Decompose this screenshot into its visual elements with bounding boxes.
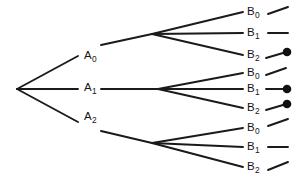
stub-a1b0 — [266, 68, 286, 75]
node-label-a1b0-subscript: 0 — [255, 71, 260, 81]
terminal-dot-a0b2 — [283, 48, 292, 57]
stub-a2b0 — [268, 119, 288, 126]
branch-a0-to-b1 — [152, 33, 243, 34]
node-label-a1b2: B2 — [247, 102, 259, 114]
node-label-a2b1-subscript: 1 — [255, 145, 260, 155]
node-label-a0b2-subscript: 2 — [255, 53, 260, 63]
node-label-a1b1-base: B — [247, 82, 255, 94]
node-label-a0b1-subscript: 1 — [255, 31, 260, 41]
node-label-a0b2: B2 — [247, 49, 259, 61]
branch-a0-to-b0 — [152, 12, 243, 34]
node-label-a1b1: B1 — [247, 83, 259, 95]
terminal-dot-a1b1 — [283, 85, 292, 94]
node-label-a1-base: A — [84, 81, 92, 93]
node-label-a0b0-base: B — [247, 5, 255, 17]
branch-a1-to-b2 — [158, 89, 243, 108]
node-label-a0-base: A — [84, 49, 92, 61]
level2-branches-a0 — [152, 12, 243, 55]
branch-a0-to-b2 — [152, 34, 243, 55]
branch-a2-to-b0 — [152, 128, 243, 143]
stub-a1b2 — [266, 105, 283, 110]
branch-a1-to-b0 — [158, 73, 243, 89]
node-label-a0-subscript: 0 — [92, 54, 97, 64]
node-label-a0b1-base: B — [247, 26, 255, 38]
node-label-a2b1: B1 — [247, 141, 259, 153]
branch-root-to-a2-left — [17, 89, 78, 122]
node-label-a1b0-base: B — [247, 66, 255, 78]
stub-a0b0 — [268, 7, 288, 14]
level2-branches-a1 — [158, 73, 243, 108]
branch-root-to-a0-left — [17, 56, 78, 89]
terminal-dots — [283, 48, 292, 109]
node-label-a1-subscript: 1 — [92, 86, 97, 96]
node-label-a1b0: B0 — [247, 67, 259, 79]
stub-a0b2 — [266, 53, 283, 58]
node-label-a2b2-subscript: 2 — [255, 165, 260, 175]
node-label-a2b1-base: B — [247, 140, 255, 152]
node-label-a2b2: B2 — [247, 161, 259, 173]
node-label-a2-base: A — [84, 110, 92, 122]
node-label-a1b1-subscript: 1 — [255, 87, 260, 97]
node-label-a2b2-base: B — [247, 160, 255, 172]
branch-root-to-a0-right — [101, 34, 152, 45]
node-label-a0: A0 — [84, 50, 96, 62]
node-label-a1: A1 — [84, 82, 96, 94]
node-label-a2b0: B0 — [247, 122, 259, 134]
terminal-dot-a1b2 — [283, 100, 292, 109]
node-label-a1b2-base: B — [247, 101, 255, 113]
node-label-a0b2-base: B — [247, 48, 255, 60]
node-label-a0b0-subscript: 0 — [255, 10, 260, 20]
stub-a2b2 — [268, 162, 288, 170]
node-label-a0b0: B0 — [247, 6, 259, 18]
node-label-a2b0-subscript: 0 — [255, 126, 260, 136]
node-label-a0b1: B1 — [247, 27, 259, 39]
node-label-a2-subscript: 2 — [92, 115, 97, 125]
node-label-a1b2-subscript: 2 — [255, 106, 260, 116]
tree-diagram: A0 A1 A2 B0 B1 B2 B0 B1 B2 B0 B1 B2 — [0, 0, 304, 184]
node-label-a2: A2 — [84, 111, 96, 123]
node-label-a2b0-base: B — [247, 121, 255, 133]
branch-root-to-a2-right — [101, 131, 152, 143]
level2-branches-a2 — [152, 128, 243, 167]
